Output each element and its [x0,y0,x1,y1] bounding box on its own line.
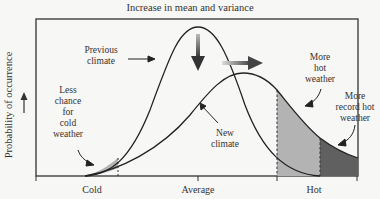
svg-text:New: New [216,128,234,138]
more-hot-pointer-icon [305,89,321,107]
less-cold-pointer-icon [78,150,94,166]
climate-distribution-diagram: Increase in mean and variance Probabilit… [0,0,380,199]
tick-label-average: Average [181,184,215,195]
svg-text:cold: cold [60,118,77,128]
up-arrow-icon [21,92,28,113]
right-arrow-icon [222,56,263,70]
y-axis-label: Probability of occurrence [3,51,14,158]
svg-text:weather: weather [340,113,371,123]
svg-text:climate: climate [87,56,115,66]
previous-climate-label: Previous climate [84,45,118,66]
new-climate-pointer-icon [200,103,218,123]
diagram-title: Increase in mean and variance [126,2,253,13]
down-arrow-icon [191,34,205,71]
svg-text:Less: Less [59,85,77,95]
svg-text:weather: weather [53,129,84,139]
svg-text:More: More [310,52,331,62]
tick-label-hot: Hot [307,184,322,195]
svg-text:for: for [62,107,74,117]
svg-text:More: More [345,91,366,101]
svg-text:chance: chance [55,96,81,106]
less-cold-label: Less chance for cold weather [53,85,84,139]
record-hot-pointer-icon [338,125,355,146]
svg-text:Previous: Previous [84,45,118,55]
new-climate-label: New climate [211,128,239,149]
tick-label-cold: Cold [82,184,101,195]
svg-text:weather: weather [305,74,336,84]
more-hot-label: More hot weather [305,52,336,84]
svg-text:climate: climate [211,139,239,149]
svg-text:hot: hot [314,63,327,73]
previous-climate-pointer-icon [128,56,155,62]
more-record-hot-label: More record hot weather [336,91,375,123]
svg-text:record hot: record hot [336,102,375,112]
